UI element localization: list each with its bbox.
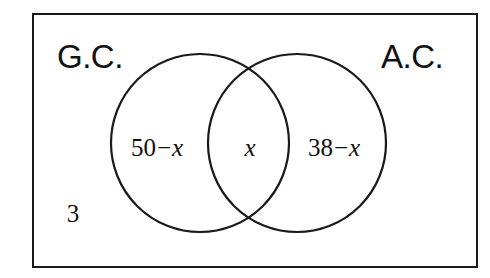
region-label-outside-sets: 3	[67, 201, 80, 226]
region-right-number: 38	[308, 134, 333, 161]
venn-diagram-screenshot: G.C. A.C. 50−x x 38−x 3	[0, 0, 490, 278]
intersection-variable: x	[244, 134, 255, 161]
set-label-right: A.C.	[381, 40, 443, 73]
region-left-operator: −	[156, 134, 172, 161]
set-label-left: G.C.	[57, 40, 123, 73]
region-label-right-only: 38−x	[308, 135, 360, 160]
region-label-left-only: 50−x	[131, 135, 183, 160]
region-right-operator: −	[333, 134, 349, 161]
region-label-intersection: x	[244, 135, 255, 160]
region-left-number: 50	[131, 134, 156, 161]
region-right-variable: x	[349, 134, 360, 161]
region-left-variable: x	[172, 134, 183, 161]
